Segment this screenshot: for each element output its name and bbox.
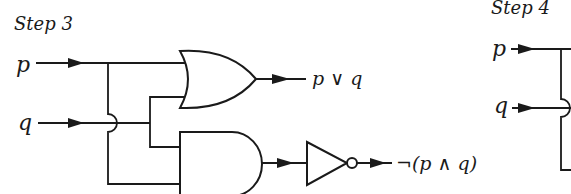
step-3-panel: Step 3 p q p ∨ q — [14, 13, 477, 194]
input-q-label: q — [18, 110, 32, 135]
inversion-bubble — [347, 158, 357, 168]
arrow-icon — [518, 44, 535, 54]
arrow-icon — [518, 103, 535, 113]
output-nand-label: ¬(p ∧ q) — [396, 152, 477, 174]
wire-p — [36, 58, 188, 68]
step4-wire-q — [512, 103, 571, 113]
output-or-label: p ∨ q — [312, 67, 362, 89]
not-gate — [307, 142, 357, 185]
and-gate — [180, 132, 262, 194]
wire-or-output — [256, 74, 306, 84]
arrow-icon — [277, 158, 294, 168]
arrow-icon — [68, 58, 84, 68]
step-3-title: Step 3 — [14, 13, 73, 34]
arrow-icon — [68, 118, 84, 128]
step4-input-p-label: p — [492, 36, 506, 61]
arrow-icon — [272, 74, 290, 84]
wire-and-output — [261, 158, 307, 168]
step-4-title: Step 4 — [491, 0, 550, 18]
step4-wire-branch — [561, 49, 571, 170]
step4-wire-p — [511, 44, 571, 54]
or-gate — [180, 51, 256, 108]
step-4-panel: Step 4 p q — [491, 0, 571, 170]
arrow-icon — [370, 158, 386, 168]
wire-not-output — [357, 158, 392, 168]
logic-circuit-diagram: Step 3 p q p ∨ q — [0, 0, 571, 194]
step4-input-q-label: q — [494, 93, 508, 118]
input-p-label: p — [16, 52, 30, 77]
wire-q — [38, 118, 150, 128]
